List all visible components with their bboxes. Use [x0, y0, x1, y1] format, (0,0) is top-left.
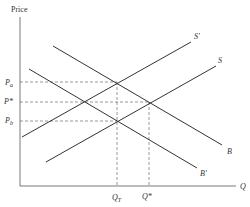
price-label-pa: Pa	[4, 78, 13, 88]
quantity-label-qt: QT	[112, 193, 122, 203]
quantity-label-qstar: Q*	[142, 192, 152, 201]
price-label-pstar: P*	[3, 97, 13, 106]
curve-label-s: S	[218, 56, 222, 65]
curve-s-prime	[22, 42, 191, 137]
curve-s	[46, 66, 216, 162]
curve-b	[53, 46, 222, 145]
y-axis-label: Price	[11, 5, 28, 14]
curve-label-s-prime: S′	[194, 32, 200, 41]
guide-lines	[20, 82, 149, 186]
curve-label-b-prime: B′	[200, 169, 207, 178]
tax-incidence-diagram: Price Q Pa P* Pb QT Q* S′ S B B′	[0, 0, 250, 207]
price-label-pb: Pb	[4, 116, 13, 126]
x-axis-label: Q	[240, 182, 246, 191]
curve-label-b: B	[227, 147, 232, 156]
